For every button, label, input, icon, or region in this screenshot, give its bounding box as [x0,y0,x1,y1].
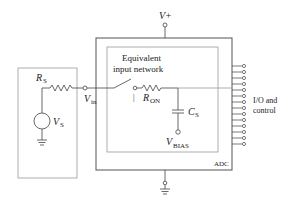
cs-label: C [188,106,195,117]
vin-sub: in [91,98,97,106]
vs-source [34,113,50,129]
ron-label: R [142,92,149,103]
rs-label: R [35,72,42,83]
vin-terminal [83,86,87,90]
adc-label: ADC [214,160,229,168]
supply-terminal [163,23,167,38]
vs-sub: S [60,121,64,129]
rs-resistor [50,85,83,91]
io-pins [232,64,246,145]
io-label-line1: I/O and [253,96,277,105]
source-circuit [34,85,83,145]
network-title-line1: Equivalent [122,53,161,63]
rs-sub: S [43,77,47,85]
input-wire [83,79,232,134]
ron-sub: ON [150,97,160,105]
switch-icon [114,79,131,88]
io-label-line2: control [253,106,276,115]
adc-ground [160,170,170,194]
adc-box [96,38,232,170]
vbias-sub: BIAS [173,142,189,150]
cs-sub: S [195,111,199,119]
circuit-diagram: V+ R S V S V in | R ON C S V BIAS Equiva… [0,0,297,208]
switch-mark: | [133,93,135,102]
supply-label: V+ [159,10,172,21]
vbias-terminal [176,130,180,134]
network-title-line2: input network [113,64,164,74]
